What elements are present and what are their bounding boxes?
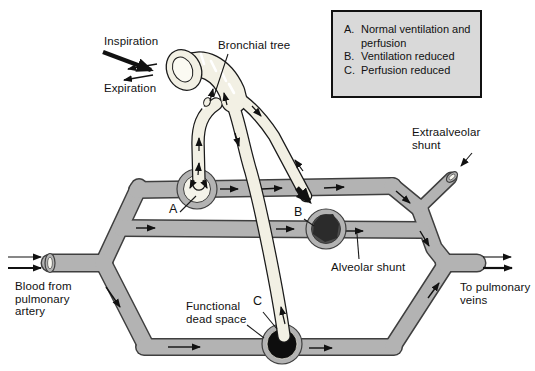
inspiration-arrow: [103, 52, 151, 70]
blood-from-pulmonary-artery-label: Blood from pulmonary artery: [15, 280, 79, 318]
expiration-arrows: [124, 64, 157, 80]
outflow-arrows: [483, 257, 512, 268]
expiration-label: Expiration: [104, 82, 156, 95]
legend-text-a: Normal ventilation and perfusion: [361, 23, 474, 50]
inflow-arrows: [8, 257, 41, 268]
legend-item-b: B. Ventilation reduced: [344, 50, 474, 64]
alveolus-b-label: B: [294, 206, 302, 219]
alveolus-a-label: A: [169, 203, 177, 216]
legend-text-c: Perfusion reduced: [361, 64, 474, 78]
ventilation-perfusion-diagram: Inspiration Expiration Bronchial tree Ex…: [0, 0, 535, 371]
legend-letter-b: B.: [344, 50, 361, 64]
extraalveolar-shunt-label: Extraalveolar shunt: [412, 126, 494, 151]
functional-dead-space-label: Functional dead space: [186, 300, 250, 325]
bronchial-tree-label: Bronchial tree: [218, 39, 290, 52]
legend-letter-a: A.: [344, 23, 361, 50]
inspiration-label: Inspiration: [104, 35, 158, 48]
legend-box: A. Normal ventilation and perfusion B. V…: [331, 10, 482, 98]
legend-text-b: Ventilation reduced: [361, 50, 474, 64]
alveolus-b-graphic: [306, 209, 346, 249]
to-pulmonary-veins-label: To pulmonary veins: [460, 281, 532, 306]
legend-item-a: A. Normal ventilation and perfusion: [344, 23, 474, 50]
alveolar-shunt-label: Alveolar shunt: [331, 261, 405, 274]
legend-item-c: C. Perfusion reduced: [344, 64, 474, 78]
alveolus-c-label: C: [253, 295, 262, 308]
artery-open-end: [45, 254, 55, 273]
legend-letter-c: C.: [344, 64, 361, 78]
